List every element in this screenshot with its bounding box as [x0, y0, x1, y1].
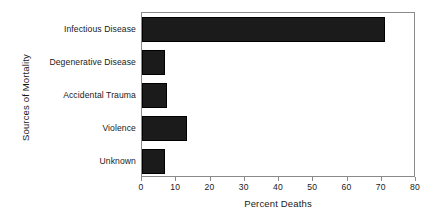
bar — [142, 116, 187, 140]
y-axis-tick-label: Unknown — [28, 156, 136, 166]
x-axis-tick-label: 70 — [366, 182, 396, 192]
x-axis-tick-label: 60 — [332, 182, 362, 192]
x-axis-tick-mark — [141, 177, 142, 181]
y-axis-tick-label: Infectious Disease — [28, 24, 136, 34]
x-axis-tick-label: 20 — [195, 182, 225, 192]
x-axis-tick-mark — [347, 177, 348, 181]
x-axis-tick-mark — [175, 177, 176, 181]
bar — [142, 83, 167, 107]
x-axis-tick-mark — [415, 177, 416, 181]
plot-area — [141, 12, 415, 177]
bar — [142, 149, 165, 173]
x-axis-tick-label: 0 — [126, 182, 156, 192]
y-axis-tick-label: Accidental Trauma — [28, 90, 136, 100]
x-axis-tick-mark — [381, 177, 382, 181]
x-axis-tick-label: 40 — [263, 182, 293, 192]
x-axis-tick-label: 50 — [297, 182, 327, 192]
x-axis-tick-label: 30 — [229, 182, 259, 192]
x-axis-tick-mark — [210, 177, 211, 181]
x-axis-tick-mark — [244, 177, 245, 181]
y-axis-tick-label: Violence — [28, 123, 136, 133]
y-axis-tick-labels: Infectious DiseaseDegenerative DiseaseAc… — [28, 12, 136, 177]
x-axis-tick-mark — [278, 177, 279, 181]
y-axis-tick-label: Degenerative Disease — [28, 57, 136, 67]
bar — [142, 17, 385, 41]
x-axis-tick-mark — [312, 177, 313, 181]
bar-chart: Sources of Mortality Infectious DiseaseD… — [0, 0, 436, 221]
bar — [142, 50, 165, 74]
x-axis-tick-label: 80 — [400, 182, 430, 192]
x-axis-title: Percent Deaths — [141, 198, 415, 209]
x-axis-tick-label: 10 — [160, 182, 190, 192]
bars-layer — [142, 13, 416, 178]
